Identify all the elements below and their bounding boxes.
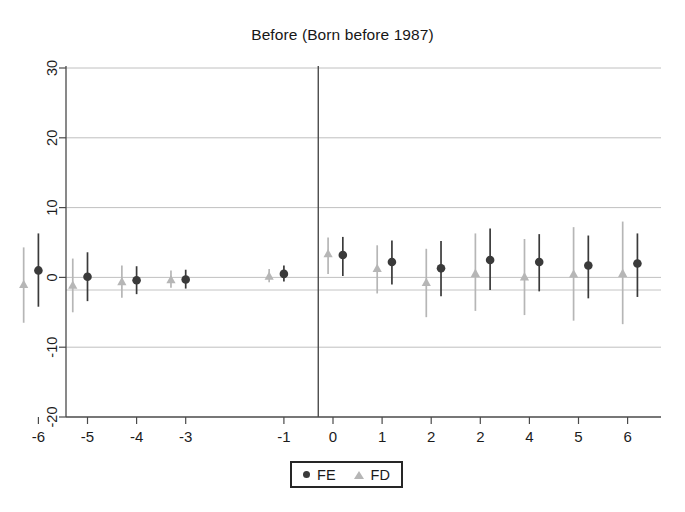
data-point-fe [339, 251, 348, 260]
data-point-fd [323, 249, 332, 257]
x-tick-label: -3 [179, 428, 192, 445]
y-tick-label: 10 [44, 200, 60, 216]
legend-triangle-icon [354, 471, 364, 479]
y-tick-label: -10 [44, 337, 60, 358]
data-point-fd [373, 264, 382, 272]
chart-legend: FE FD [290, 461, 403, 488]
y-tick-label: 0 [44, 273, 60, 281]
data-point-fe [535, 258, 544, 267]
data-point-fe [132, 276, 141, 285]
series-fe-group [34, 229, 642, 307]
data-point-fe [181, 275, 190, 284]
legend-item-fd: FD [354, 467, 390, 483]
data-point-fd [265, 271, 274, 279]
x-tick-label: 1 [378, 428, 386, 445]
data-point-fe [584, 261, 593, 270]
x-tick-label: -5 [81, 428, 94, 445]
series-fd-group [19, 222, 627, 325]
data-point-fd [618, 269, 627, 277]
y-tick-label: 30 [44, 60, 60, 76]
x-tick-label: 6 [623, 428, 631, 445]
data-point-fe [633, 259, 642, 268]
data-point-fd [422, 278, 431, 286]
data-point-fe [486, 256, 495, 265]
plot-area: -20-100102030 -6-5-4-3-10122456 [0, 0, 685, 512]
data-point-fe [34, 266, 43, 275]
data-point-fd [68, 280, 77, 288]
legend-label-fd: FD [371, 467, 390, 483]
x-tick-label: 2 [427, 428, 435, 445]
x-tick-labels-group: -6-5-4-3-10122456 [32, 428, 632, 445]
y-tick-label: 20 [44, 130, 60, 146]
axes-group [66, 66, 661, 417]
data-point-fd [471, 269, 480, 277]
data-point-fd [19, 280, 28, 288]
x-tick-label: 4 [525, 428, 533, 445]
data-point-fd [117, 277, 126, 285]
data-point-fe [83, 272, 92, 281]
x-tick-label: 0 [329, 428, 337, 445]
x-tick-label: 2 [476, 428, 484, 445]
data-point-fe [388, 258, 397, 267]
x-tick-label: 5 [574, 428, 582, 445]
x-tick-label: -4 [130, 428, 143, 445]
legend-item-fe: FE [303, 467, 336, 483]
chart-figure: Before (Born before 1987) -20-100102030 … [0, 0, 685, 512]
data-point-fd [166, 275, 175, 283]
x-tick-label: -6 [32, 428, 45, 445]
legend-label-fe: FE [317, 467, 336, 483]
y-tick-labels-group: -20-100102030 [44, 60, 60, 428]
data-point-fe [437, 264, 446, 273]
data-point-fe [280, 270, 289, 279]
legend-circle-icon [303, 471, 310, 478]
x-tick-label: -1 [277, 428, 290, 445]
y-tick-label: -20 [44, 407, 60, 428]
data-point-fd [520, 272, 529, 280]
gridlines-group [66, 68, 661, 347]
data-point-fd [569, 269, 578, 277]
